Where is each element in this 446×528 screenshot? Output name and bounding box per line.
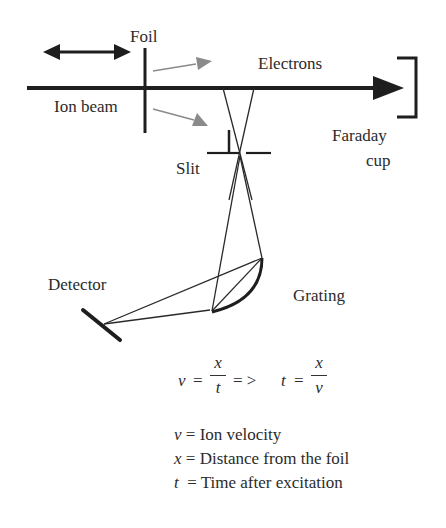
legend-sep: = (182, 449, 200, 468)
eq-frac2-bar (311, 375, 327, 376)
legend-item-velocity: v = Ion velocity (174, 425, 281, 445)
eq-frac2-den: v (315, 378, 323, 397)
eq-frac1-bar (210, 375, 226, 376)
grating-label: Grating (293, 287, 345, 304)
legend-symbol: v (174, 425, 182, 444)
legend-item-distance: x = Distance from the foil (174, 449, 349, 469)
eq-equals-2: = (294, 371, 304, 391)
foil-label: Foil (130, 28, 157, 45)
detector-label: Detector (48, 276, 107, 293)
eq-rhs-var: t (281, 371, 286, 391)
legend-sep: = (182, 425, 200, 444)
legend-sep: = (179, 473, 201, 492)
eq-fraction-x-over-t: x t (210, 353, 226, 398)
legend-symbol: x (174, 449, 182, 468)
legend-text: Distance from the foil (200, 449, 350, 468)
eq-frac1-num: x (214, 353, 222, 372)
faraday-cup-label-line2: cup (366, 152, 391, 169)
grating-to-detector-lines (104, 258, 262, 324)
light-path-lines (223, 88, 254, 200)
legend-text: Ion velocity (200, 425, 282, 444)
legend-item-time: t = Time after excitation (174, 473, 343, 493)
electron-arrow-upper-icon (153, 57, 212, 71)
eq-frac2-num: x (315, 353, 323, 372)
eq-frac1-den: t (216, 378, 221, 397)
eq-implies: = > (233, 371, 256, 391)
eq-fraction-x-over-v: x v (311, 353, 327, 398)
detector-plate (83, 310, 120, 340)
slit-label: Slit (176, 160, 200, 177)
foil-movement-double-arrow-icon (43, 44, 131, 60)
faraday-cup-label-line1: Faraday (332, 127, 387, 144)
ion-beam-label: Ion beam (54, 98, 118, 115)
legend-text: Time after excitation (201, 473, 343, 492)
electrons-label: Electrons (258, 55, 322, 72)
eq-equals-1: = (193, 371, 203, 391)
eq-lhs-var: v (178, 371, 186, 391)
electron-arrow-lower-icon (153, 109, 208, 126)
